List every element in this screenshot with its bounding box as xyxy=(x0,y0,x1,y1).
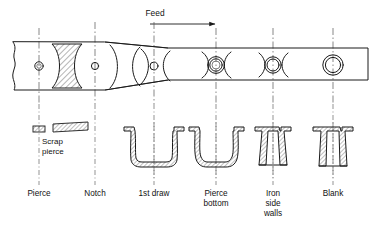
scrap-slug-pierce xyxy=(33,126,45,132)
isw-arc-right xyxy=(282,53,288,77)
notch-cutout-right xyxy=(133,47,141,86)
station-pierce-bottom-feature xyxy=(202,52,231,78)
station-first-draw-feature xyxy=(141,49,170,84)
scrap-slug-notch xyxy=(53,122,88,132)
section-pierce-bottom-cup xyxy=(189,122,244,178)
notch-cutout-left xyxy=(110,45,118,88)
station-label-pierce-bottom-line1: Pierce xyxy=(204,189,228,198)
scrap-label-line1: Scrap xyxy=(42,137,63,146)
station-label-pierce-bottom-line2: bottom xyxy=(203,199,228,208)
notch-scrap-hatched xyxy=(52,44,82,88)
station-centerlines-lower xyxy=(39,104,333,185)
station-label-iron-side-walls-line3: walls xyxy=(263,209,282,218)
station-label-blank: Blank xyxy=(323,189,344,198)
progressive-die-strip-diagram: Feed xyxy=(0,0,375,226)
station-label-notch: Notch xyxy=(84,189,106,198)
station-labels: Pierce Notch 1st draw Pierce bottom Iron… xyxy=(27,189,344,218)
station-label-iron-side-walls-line1: Iron xyxy=(266,189,281,198)
figure-canvas: Feed xyxy=(0,0,375,226)
station-iron-side-walls-feature xyxy=(259,53,288,77)
station-centerlines-upper xyxy=(39,22,333,104)
draw-arc-left xyxy=(141,49,149,84)
station-label-first-draw: 1st draw xyxy=(139,189,170,198)
scrap-label-line2: pierce xyxy=(42,147,64,156)
station-label-iron-side-walls-line2: side xyxy=(265,199,280,208)
scrap-pieces-group: Scrap pierce xyxy=(33,122,88,156)
notch-cutouts xyxy=(110,45,140,88)
feed-label: Feed xyxy=(145,8,164,18)
pb-arc-right xyxy=(224,52,231,78)
station-label-pierce: Pierce xyxy=(27,189,51,198)
strip-taper-top xyxy=(105,42,168,48)
pierce-bottom-cup-wall xyxy=(189,127,244,167)
isw-arc-left xyxy=(259,53,265,77)
draw-arc-right xyxy=(163,51,170,81)
notch-scrap-area xyxy=(52,44,82,88)
feed-arrow-group: Feed xyxy=(88,8,215,30)
